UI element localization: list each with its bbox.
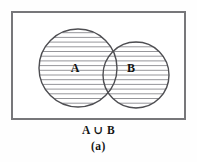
venn-diagram-canvas: A B [0, 0, 197, 162]
set-label-a: A [71, 61, 80, 75]
venn-diagram-figure: A B A ∪ B (a) [0, 0, 197, 162]
caption-figure-label: (a) [0, 140, 197, 152]
set-label-b: B [127, 61, 135, 75]
caption-expression: A ∪ B [0, 123, 197, 137]
